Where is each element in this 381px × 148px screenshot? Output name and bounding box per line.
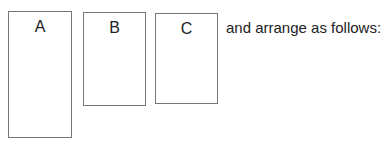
box-c-label: C — [156, 20, 217, 38]
instruction-text: and arrange as follows: — [226, 19, 381, 36]
box-a: A — [8, 11, 72, 138]
box-b-label: B — [84, 19, 145, 37]
box-b: B — [83, 12, 146, 106]
box-c: C — [155, 13, 218, 104]
box-a-label: A — [9, 18, 71, 36]
